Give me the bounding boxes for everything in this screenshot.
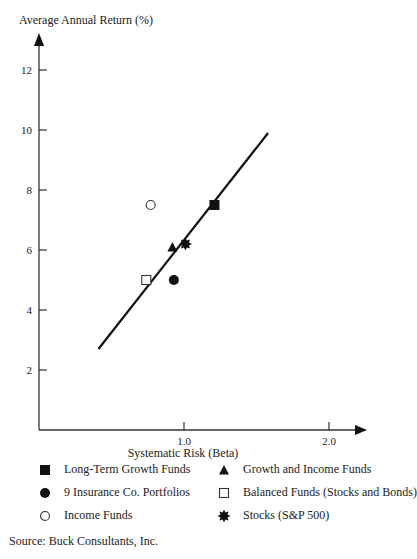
legend-label: Growth and Income Funds <box>243 462 371 477</box>
y-tick-label: 10 <box>21 124 33 136</box>
data-point <box>209 200 219 210</box>
legend-marker <box>218 509 231 522</box>
data-point <box>179 238 192 251</box>
legend-item: Balanced Funds (Stocks and Bonds) <box>217 485 417 500</box>
legend-marker <box>219 465 229 475</box>
star-icon <box>179 238 192 251</box>
data-points <box>142 200 220 285</box>
open-circle-icon <box>41 511 50 520</box>
x-axis-label: Systematic Risk (Beta) <box>128 446 239 460</box>
x-tick-label: 2.0 <box>322 435 336 447</box>
filled-circle-icon <box>38 486 52 500</box>
scatter-chart: Average Annual Return (%) 246810121.02.0… <box>0 0 401 460</box>
open-square-icon <box>217 486 231 500</box>
filled-triangle-icon <box>217 463 231 477</box>
legend-label: Income Funds <box>64 508 132 523</box>
data-point <box>167 242 177 252</box>
filled-triangle-icon <box>219 465 229 475</box>
open-square-icon <box>220 488 229 497</box>
filled-circle-icon <box>40 488 50 498</box>
legend-item: Long-Term Growth Funds <box>38 462 190 477</box>
legend-label: Stocks (S&P 500) <box>243 508 329 523</box>
open-circle-icon <box>38 509 52 523</box>
filled-circle-icon <box>169 275 179 285</box>
star-icon <box>218 509 231 522</box>
legend-item: Growth and Income Funds <box>217 462 371 477</box>
ticks: 246810121.02.0 <box>21 64 336 447</box>
legend-marker <box>41 511 50 520</box>
filled-square-icon <box>40 465 50 475</box>
legend-item: Income Funds <box>38 508 132 523</box>
y-tick-label: 6 <box>27 244 33 256</box>
y-tick-label: 4 <box>27 304 33 316</box>
y-tick-label: 12 <box>21 64 32 76</box>
axes <box>34 33 367 435</box>
legend-item: 9 Insurance Co. Portfolios <box>38 485 190 500</box>
x-axis-arrow <box>355 425 367 435</box>
data-point <box>146 201 155 210</box>
legend-label: Long-Term Growth Funds <box>64 462 190 477</box>
data-point <box>142 276 151 285</box>
filled-triangle-icon <box>167 242 177 252</box>
y-axis-arrow <box>34 33 44 46</box>
data-point <box>169 275 179 285</box>
y-tick-label: 2 <box>27 364 33 376</box>
legend-marker <box>40 488 50 498</box>
open-circle-icon <box>146 201 155 210</box>
legend-marker <box>220 488 229 497</box>
y-axis-label: Average Annual Return (%) <box>19 13 153 27</box>
open-square-icon <box>142 276 151 285</box>
source-note: Source: Buck Consultants, Inc. <box>9 534 158 549</box>
y-tick-label: 8 <box>27 184 33 196</box>
filled-square-icon <box>38 463 52 477</box>
legend-marker <box>40 465 50 475</box>
filled-square-icon <box>209 200 219 210</box>
legend-label: Balanced Funds (Stocks and Bonds) <box>243 485 417 500</box>
legend-label: 9 Insurance Co. Portfolios <box>64 485 190 500</box>
legend-item: Stocks (S&P 500) <box>217 508 329 523</box>
star-icon <box>217 509 231 523</box>
